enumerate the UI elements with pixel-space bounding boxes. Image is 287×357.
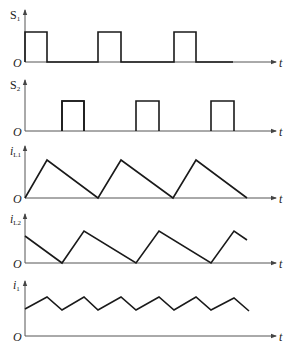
s2-pulse-train bbox=[62, 101, 84, 131]
panel-il2 bbox=[25, 214, 276, 263]
label-il2: iL2 bbox=[10, 213, 21, 227]
origin-label-il2: O bbox=[13, 258, 22, 270]
t-label-s1: t bbox=[279, 57, 282, 69]
waveform-plots bbox=[0, 0, 287, 357]
il2-triangle-wave bbox=[25, 231, 247, 263]
label-s1: S1 bbox=[10, 9, 20, 23]
panel-i1 bbox=[25, 281, 276, 336]
origin-label-i1: O bbox=[13, 331, 22, 343]
panel-s1 bbox=[25, 10, 276, 62]
t-label-il1: t bbox=[279, 193, 282, 205]
interleaved-converter-waveform-diagram: S1 O t S2 O t iL1 O t iL2 O t i1 O t bbox=[0, 0, 287, 357]
label-s2: S2 bbox=[10, 79, 20, 93]
label-il1: iL1 bbox=[10, 145, 21, 159]
s1-pulse-train bbox=[25, 32, 233, 62]
origin-label-s2: O bbox=[13, 126, 22, 138]
label-i1: i1 bbox=[13, 279, 20, 293]
origin-label-il1: O bbox=[13, 193, 22, 205]
i1-ripple-wave bbox=[25, 297, 249, 311]
origin-label-s1: O bbox=[13, 57, 22, 69]
il1-triangle-wave bbox=[25, 160, 247, 198]
t-label-il2: t bbox=[279, 258, 282, 270]
t-label-i1: t bbox=[279, 331, 282, 343]
t-label-s2: t bbox=[279, 126, 282, 138]
panel-s2 bbox=[25, 80, 276, 131]
panel-il1 bbox=[25, 146, 276, 198]
